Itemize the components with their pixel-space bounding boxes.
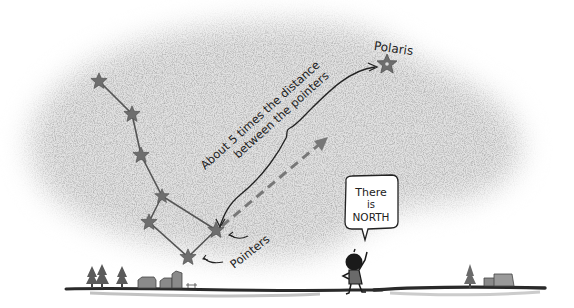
sky-shading — [0, 0, 574, 308]
house-icon — [138, 277, 156, 288]
north-star-illustration: Polaris About 5 times the distance betwe… — [0, 0, 574, 308]
house-icon — [172, 271, 182, 288]
house-icon — [160, 278, 172, 288]
speech-line-1: There — [354, 186, 387, 199]
speech-line-2: is — [367, 199, 375, 210]
building-icon — [494, 274, 514, 286]
speech-line-3: NORTH — [353, 211, 390, 223]
